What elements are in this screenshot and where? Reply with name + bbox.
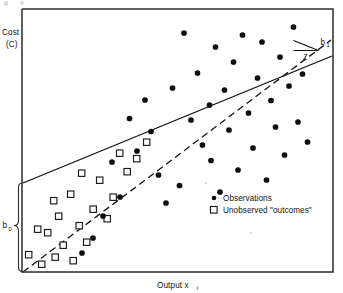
chart-background bbox=[0, 0, 343, 293]
intercept-label-subscript: 0 bbox=[9, 226, 12, 232]
legend-filled-dot-icon bbox=[212, 196, 217, 201]
slope-label-text: b bbox=[321, 37, 326, 47]
legend-label-observations: Observations bbox=[223, 194, 272, 203]
legend-open-square-icon bbox=[211, 207, 218, 214]
slope-label-subscript: 1 bbox=[327, 42, 330, 48]
cost-output-scatter-chart: Cost (C) Output x t b 0 bbox=[0, 0, 343, 293]
x-axis-label-text: Output x bbox=[157, 281, 189, 290]
legend-item-unobserved-outcomes: Unobserved "outcomes" bbox=[211, 206, 312, 215]
figure-root: Cost (C) Output x t b 0 bbox=[0, 0, 343, 293]
legend-label-unobserved-outcomes: Unobserved "outcomes" bbox=[223, 206, 312, 215]
y-axis-label-line1: Cost bbox=[2, 28, 20, 37]
intercept-label-text: b bbox=[3, 220, 8, 230]
y-axis-label-line2: (C) bbox=[6, 40, 18, 49]
